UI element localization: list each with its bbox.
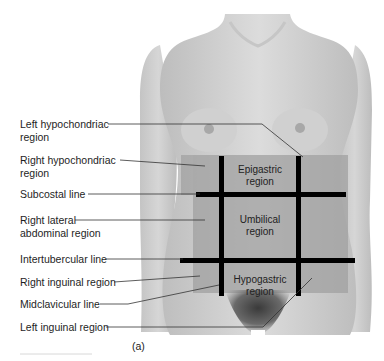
label-intertubercular-line: Intertubercular line: [20, 253, 107, 266]
region-line: region: [220, 176, 300, 188]
label-line: Intertubercular line: [20, 253, 107, 266]
subcostal-grid-line: [196, 192, 346, 197]
label-subcostal-line: Subcostal line: [20, 188, 85, 201]
region-hypogastric: Hypogastric region: [220, 274, 300, 298]
label-midclavicular-line: Midclavicular line: [20, 298, 100, 311]
label-line: Right lateral: [20, 214, 101, 227]
region-line: region: [220, 286, 300, 298]
region-line: region: [220, 226, 300, 238]
label-right-hypochondriac-region: Right hypochondriac region: [20, 154, 116, 179]
label-left-inguinal-region: Left inguinal region: [20, 321, 109, 334]
label-line: region: [20, 131, 109, 144]
label-right-lateral-abdominal-region: Right lateral abdominal region: [20, 214, 101, 239]
abdominal-regions-figure: Left hypochondriac region Right hypochon…: [0, 0, 384, 361]
intertubercular-grid-line: [180, 258, 355, 263]
region-umbilical: Umbilical region: [220, 214, 300, 238]
region-line: Hypogastric: [220, 274, 300, 286]
label-line: Right inguinal region: [20, 276, 116, 289]
region-line: Umbilical: [220, 214, 300, 226]
region-line: Epigastric: [220, 164, 300, 176]
label-line: region: [20, 167, 116, 180]
label-line: Right hypochondriac: [20, 154, 116, 167]
label-right-inguinal-region: Right inguinal region: [20, 276, 116, 289]
label-line: Midclavicular line: [20, 298, 100, 311]
region-epigastric: Epigastric region: [220, 164, 300, 188]
label-line: abdominal region: [20, 227, 101, 240]
upper-lateral-overlay: [181, 155, 193, 195]
label-line: Left inguinal region: [20, 321, 109, 334]
label-left-hypochondriac-region: Left hypochondriac region: [20, 118, 109, 143]
label-line: Subcostal line: [20, 188, 85, 201]
figure-caption: (a): [132, 340, 145, 352]
label-line: Left hypochondriac: [20, 118, 109, 131]
